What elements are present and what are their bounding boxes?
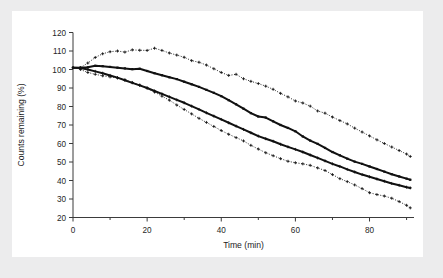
data-point-marker — [109, 66, 111, 68]
data-point-marker — [249, 80, 252, 83]
data-point-marker — [316, 166, 319, 169]
data-point-marker — [242, 108, 244, 110]
data-point-marker — [294, 130, 296, 132]
data-point-marker — [287, 127, 289, 129]
data-point-marker — [116, 67, 118, 69]
data-point-marker — [257, 115, 259, 117]
data-point-marker — [339, 154, 341, 156]
data-point-marker — [94, 65, 96, 67]
data-point-marker — [409, 155, 412, 158]
data-point-marker — [361, 131, 364, 134]
x-axis-tick-label: 60 — [291, 226, 301, 235]
data-point-marker — [317, 143, 319, 145]
data-point-marker — [272, 120, 274, 122]
data-point-marker — [376, 168, 378, 170]
data-point-marker — [153, 47, 156, 50]
data-point-marker — [391, 173, 393, 175]
data-point-marker — [405, 204, 408, 207]
data-point-marker — [316, 109, 319, 112]
data-point-marker — [190, 59, 193, 62]
data-point-marker — [375, 138, 378, 141]
y-axis-tick-label: 60 — [57, 140, 67, 149]
data-point-marker — [249, 144, 252, 147]
data-point-marker — [390, 146, 393, 149]
series-lower-dotted — [79, 68, 412, 209]
data-point-marker — [86, 71, 89, 74]
data-point-marker — [324, 147, 326, 149]
data-point-marker — [124, 67, 126, 69]
data-point-marker — [86, 62, 89, 65]
data-point-marker — [168, 52, 171, 55]
x-axis-tick-label: 80 — [365, 226, 375, 235]
data-point-marker — [309, 105, 312, 108]
data-point-marker — [390, 197, 393, 200]
data-point-marker — [375, 193, 378, 196]
data-point-marker — [175, 54, 178, 57]
y-axis-tick-label: 70 — [57, 121, 67, 130]
y-axis-tick-label: 80 — [57, 103, 67, 112]
data-point-marker — [398, 200, 401, 203]
data-point-marker — [123, 51, 126, 54]
data-point-marker — [265, 117, 267, 119]
data-point-marker — [139, 68, 141, 70]
data-point-marker — [205, 64, 208, 67]
series-upper-dotted — [79, 47, 412, 158]
data-point-marker — [272, 88, 275, 91]
data-point-marker — [368, 165, 370, 167]
data-point-marker — [220, 95, 222, 97]
data-point-marker — [398, 149, 401, 152]
y-axis-tick-label: 30 — [57, 195, 67, 204]
data-point-marker — [168, 76, 170, 78]
data-point-marker — [264, 151, 267, 154]
data-point-marker — [242, 77, 245, 80]
y-axis-title: Counts remaining (%) — [16, 83, 26, 166]
x-axis-title: Time (min) — [223, 240, 264, 250]
data-point-marker — [101, 52, 104, 55]
data-point-marker — [212, 67, 215, 70]
data-point-marker — [131, 48, 134, 51]
data-point-marker — [227, 74, 230, 77]
data-point-marker — [153, 72, 155, 74]
data-point-marker — [398, 175, 400, 177]
data-point-marker — [409, 179, 411, 181]
data-point-marker — [183, 81, 185, 83]
x-axis-tick-label: 0 — [71, 226, 76, 235]
data-point-marker — [302, 135, 304, 137]
data-point-marker — [324, 112, 327, 115]
y-axis-tick-label: 90 — [57, 84, 67, 93]
data-point-marker — [213, 92, 215, 94]
data-point-marker — [301, 162, 304, 165]
data-point-marker — [205, 121, 208, 124]
data-point-marker — [353, 183, 356, 186]
data-point-marker — [116, 50, 119, 53]
y-axis-tick-label: 100 — [52, 66, 66, 75]
data-point-marker — [301, 101, 304, 104]
data-point-marker — [160, 49, 163, 52]
data-point-marker — [257, 82, 260, 85]
data-point-marker — [368, 134, 371, 137]
data-point-marker — [279, 157, 282, 160]
data-point-marker — [272, 154, 275, 157]
data-point-marker — [242, 139, 245, 142]
y-axis-tick-label: 40 — [57, 177, 67, 186]
y-axis-tick-label: 110 — [53, 47, 66, 56]
data-point-marker — [361, 163, 363, 165]
data-point-marker — [102, 65, 104, 67]
data-point-marker — [331, 151, 333, 153]
data-point-marker — [235, 103, 237, 105]
data-point-marker — [198, 61, 201, 64]
data-point-marker — [338, 119, 341, 122]
data-point-marker — [279, 124, 281, 126]
data-point-marker — [94, 73, 97, 76]
data-point-marker — [346, 180, 349, 183]
y-axis-tick-label: 120 — [52, 29, 66, 38]
data-point-marker — [405, 178, 407, 180]
x-axis-tick-label: 40 — [217, 226, 227, 235]
data-point-marker — [220, 71, 223, 74]
chart-plot-area: 2030405060708090100110120020406080Time (… — [0, 0, 443, 278]
x-axis-tick-label: 20 — [143, 226, 153, 235]
series-upper-solid — [72, 65, 411, 181]
y-axis-tick-label: 50 — [57, 158, 67, 167]
data-point-marker — [183, 108, 186, 111]
data-point-marker — [227, 133, 230, 136]
